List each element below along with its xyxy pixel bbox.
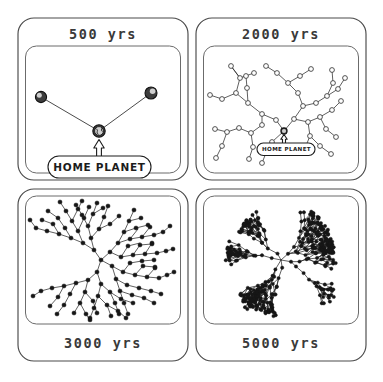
node — [244, 253, 247, 256]
node — [330, 267, 333, 270]
home-planet-label: HOME PLANET — [53, 161, 145, 173]
node — [263, 229, 266, 232]
node — [277, 276, 280, 279]
node — [322, 295, 325, 298]
node — [270, 256, 273, 259]
node — [264, 310, 267, 313]
node — [254, 301, 257, 304]
node — [307, 233, 310, 236]
node — [270, 308, 273, 311]
node — [276, 252, 279, 255]
node — [334, 261, 337, 264]
node — [244, 297, 247, 300]
home-planet-label: HOME PLANET — [262, 146, 311, 152]
node — [255, 210, 258, 213]
node — [326, 233, 329, 236]
node — [230, 245, 233, 248]
node — [267, 280, 270, 283]
node — [292, 245, 295, 248]
node — [306, 229, 309, 232]
node — [224, 259, 227, 262]
node — [242, 225, 245, 228]
node — [266, 301, 269, 304]
panel-3000-yrs: 3000 yrs — [18, 189, 188, 361]
node — [316, 281, 319, 284]
node — [311, 217, 314, 220]
node — [228, 249, 231, 252]
panel-500-yrs: 500 yrs — [18, 18, 188, 180]
panel-500-title: 500 yrs — [69, 26, 137, 42]
node — [250, 299, 253, 302]
node — [250, 228, 253, 231]
node — [251, 213, 254, 216]
planet-node — [145, 87, 157, 99]
node — [257, 216, 260, 219]
node — [249, 218, 252, 221]
node — [304, 253, 307, 256]
node — [274, 268, 277, 271]
node — [314, 252, 317, 255]
node — [238, 248, 241, 251]
panel-500-inner-frame — [26, 46, 181, 173]
node — [318, 294, 321, 297]
colonization-figure: 500 yrs — [0, 0, 383, 382]
node — [332, 295, 335, 298]
node — [323, 283, 326, 286]
node — [297, 236, 300, 239]
node — [228, 254, 231, 257]
panel-5000-yrs: 5000 yrs — [196, 189, 366, 361]
node — [315, 256, 318, 259]
node — [313, 247, 316, 250]
node — [298, 240, 301, 243]
home-planet-node — [93, 125, 105, 137]
node — [260, 254, 263, 257]
node — [268, 285, 271, 288]
node — [307, 257, 310, 260]
node — [322, 292, 325, 295]
panel-3000-title: 3000 yrs — [64, 335, 142, 351]
node — [321, 288, 324, 291]
node — [234, 259, 237, 262]
node — [260, 241, 263, 244]
node — [315, 231, 318, 234]
node — [309, 228, 312, 231]
node — [230, 263, 233, 266]
node — [302, 271, 305, 274]
node — [320, 258, 323, 261]
node — [329, 286, 332, 289]
node — [331, 258, 334, 261]
node — [331, 247, 334, 250]
node — [314, 227, 317, 230]
node — [310, 235, 313, 238]
node — [267, 308, 270, 311]
node — [237, 243, 240, 246]
node — [250, 304, 253, 307]
node — [294, 250, 297, 253]
node — [235, 253, 238, 256]
node — [275, 285, 278, 288]
home-planet-node — [281, 128, 287, 134]
node — [315, 240, 318, 243]
node — [325, 230, 328, 233]
node — [317, 217, 320, 220]
node — [313, 261, 316, 264]
node — [300, 245, 303, 248]
node — [307, 278, 310, 281]
node — [315, 285, 318, 288]
node — [256, 305, 259, 308]
node — [228, 259, 231, 262]
node — [264, 292, 267, 295]
node — [254, 254, 257, 257]
node — [301, 237, 304, 240]
panel-2000-yrs: 2000 yrs — [196, 18, 366, 180]
node — [240, 294, 243, 297]
node — [327, 296, 330, 299]
node — [266, 247, 269, 250]
node — [239, 231, 242, 234]
node — [245, 219, 248, 222]
node — [326, 239, 329, 242]
node — [252, 237, 255, 240]
node — [308, 220, 311, 223]
node — [246, 286, 249, 289]
node — [264, 284, 267, 287]
